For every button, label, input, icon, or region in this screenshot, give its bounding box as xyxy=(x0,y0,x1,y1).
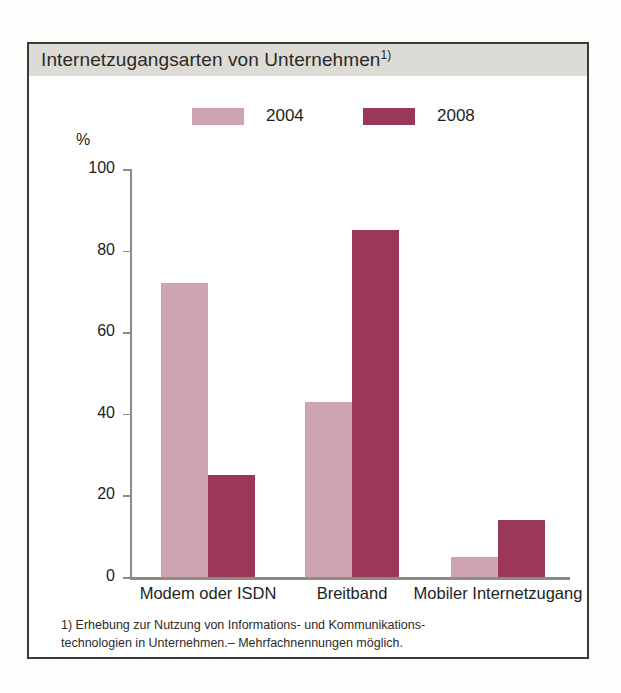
chart-panel: Internetzugangsarten von Unternehmen1) 2… xyxy=(27,42,589,659)
footnote: 1) Erhebung zur Nutzung von Informations… xyxy=(61,616,567,652)
y-axis-tick-label: 0 xyxy=(67,567,115,585)
bar-2008-breitband xyxy=(352,230,399,577)
bar-2004-breitband xyxy=(305,402,352,577)
bar-group xyxy=(451,169,545,577)
x-axis-label-2: Breitband xyxy=(317,584,388,603)
x-axis-category-labels: Modem oder ISDNBreitbandMobiler Internet… xyxy=(130,584,570,610)
y-axis-tick xyxy=(123,577,131,579)
y-axis-tick-label: 20 xyxy=(67,485,115,503)
page-background: Internetzugangsarten von Unternehmen1) 2… xyxy=(0,0,621,693)
footnote-line-2: technologien in Unternehmen.– Mehrfachne… xyxy=(61,634,567,652)
bar-2004-mobiler-internetzugang xyxy=(451,557,498,577)
plot-area: % 100806040200 Modem oder ISDNBreitbandM… xyxy=(29,44,587,657)
x-axis-label-3: Mobiler Internetzugang xyxy=(414,584,583,603)
x-axis-line xyxy=(130,577,570,580)
x-axis-label-1: Modem oder ISDN xyxy=(140,584,277,603)
y-axis-unit-label: % xyxy=(76,131,90,149)
y-axis-tick-label: 100 xyxy=(67,159,115,177)
bar-group xyxy=(161,169,255,577)
bar-2008-modem-oder-isdn xyxy=(208,475,255,577)
bar-series-container xyxy=(130,169,570,577)
bar-2004-modem-oder-isdn xyxy=(161,283,208,577)
y-axis-tick-label: 80 xyxy=(67,241,115,259)
y-axis-tick-label: 40 xyxy=(67,404,115,422)
bar-group xyxy=(305,169,399,577)
footnote-line-1: 1) Erhebung zur Nutzung von Informations… xyxy=(61,616,567,634)
bar-2008-mobiler-internetzugang xyxy=(498,520,545,577)
y-axis-tick-label: 60 xyxy=(67,322,115,340)
